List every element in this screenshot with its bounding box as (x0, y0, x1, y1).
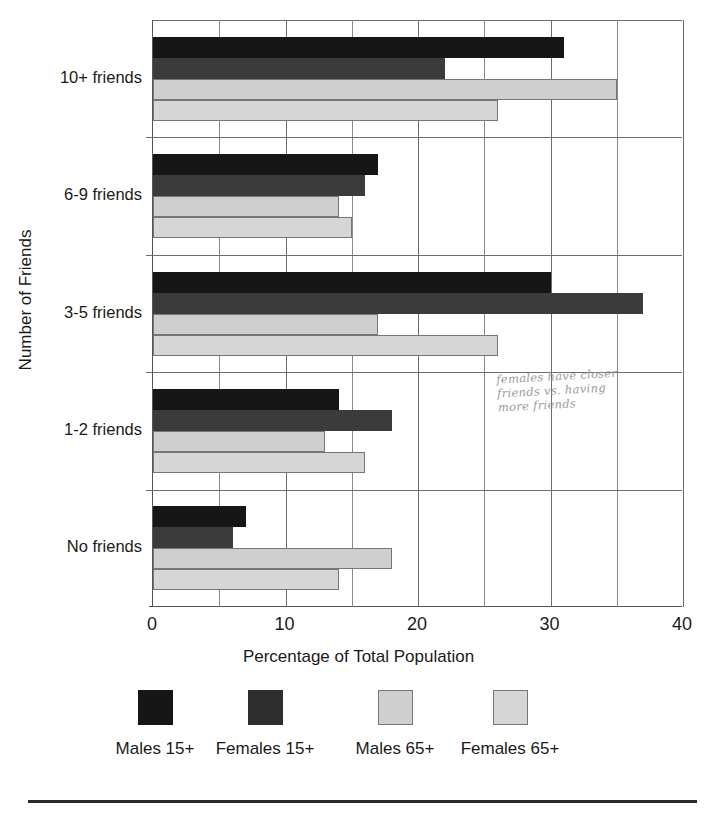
legend-label: Females 65+ (450, 739, 570, 759)
y-axis-tick-label: 6-9 friends (64, 185, 142, 204)
y-axis-tick-label: 10+ friends (60, 68, 142, 87)
legend-swatch (378, 690, 413, 725)
bar (153, 175, 365, 196)
bar (153, 410, 392, 431)
bar (153, 569, 339, 590)
legend-item-females-65-: Females 65+ (450, 690, 570, 759)
x-axis-line (149, 606, 682, 607)
legend-swatch (138, 690, 173, 725)
bar (153, 293, 643, 314)
gridline-minor-35 (617, 20, 618, 607)
bar (153, 58, 445, 79)
legend-item-males-65-: Males 65+ (335, 690, 455, 759)
y-axis-tick-label: 3-5 friends (64, 303, 142, 322)
legend-label: Males 65+ (335, 739, 455, 759)
bar (153, 217, 352, 238)
bar (153, 506, 246, 527)
x-axis-tick-label: 40 (652, 614, 712, 635)
bar (153, 154, 378, 175)
category-separator (146, 255, 682, 256)
x-axis-tick-label: 10 (255, 614, 315, 635)
bar (153, 79, 617, 100)
bar (153, 37, 564, 58)
chart-legend: Males 15+Females 15+Males 65+Females 65+ (0, 690, 717, 770)
bar (153, 527, 233, 548)
bar (153, 100, 498, 121)
y-axis-tick-label: No friends (67, 537, 142, 556)
bar (153, 389, 339, 410)
category-separator (146, 372, 682, 373)
legend-label: Males 15+ (95, 739, 215, 759)
bar (153, 196, 339, 217)
gridline-major-40 (683, 20, 684, 607)
y-axis-tick-label: 1-2 friends (64, 420, 142, 439)
x-axis-tick-label: 0 (122, 614, 182, 635)
legend-item-males-15-: Males 15+ (95, 690, 215, 759)
bar (153, 335, 498, 356)
legend-item-females-15-: Females 15+ (205, 690, 325, 759)
bar (153, 431, 325, 452)
legend-swatch (493, 690, 528, 725)
bar (153, 272, 551, 293)
bar-chart: Number of Friends 10+ friends6-9 friends… (0, 0, 717, 816)
gridline-major-30 (551, 20, 552, 607)
x-axis-tick-label: 30 (520, 614, 580, 635)
y-axis-title: Number of Friends (16, 175, 36, 425)
bar (153, 314, 378, 335)
legend-label: Females 15+ (205, 739, 325, 759)
page-bottom-rule (28, 800, 697, 803)
y-axis-title-wrap: Number of Friends (6, 0, 40, 607)
x-axis-title: Percentage of Total Population (0, 647, 717, 667)
x-axis-tick-label: 20 (387, 614, 447, 635)
category-separator (146, 490, 682, 491)
bar (153, 548, 392, 569)
plot-area (152, 20, 682, 607)
legend-swatch (248, 690, 283, 725)
category-separator (146, 137, 682, 138)
bar (153, 452, 365, 473)
